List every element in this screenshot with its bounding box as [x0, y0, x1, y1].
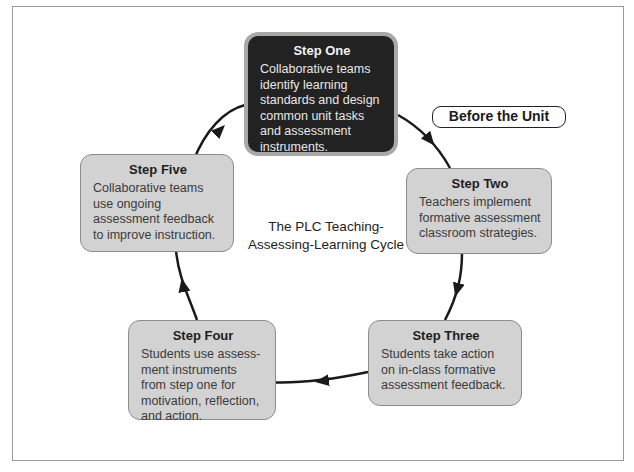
- step-four-box: Step Four Students use assess-ment instr…: [128, 320, 276, 420]
- step-two-text: Teachers implement formative assessment …: [419, 195, 541, 242]
- step-three-text: Students take action on in-class formati…: [381, 347, 511, 394]
- cycle-title-line-1: The PLC Teaching-: [246, 218, 406, 236]
- step-five-box: Step Five Collaborative teams use ongoin…: [80, 154, 234, 252]
- before-the-unit-badge: Before the Unit: [432, 106, 566, 128]
- step-three-box: Step Three Students take action on in-cl…: [368, 320, 522, 406]
- step-two-box: Step Two Teachers implement formative as…: [406, 168, 552, 254]
- step-one-title: Step One: [260, 43, 384, 58]
- step-five-title: Step Five: [93, 162, 223, 177]
- step-four-title: Step Four: [141, 328, 265, 343]
- step-three-title: Step Three: [381, 328, 511, 343]
- step-five-text: Collaborative teams use ongoing assessme…: [93, 181, 223, 243]
- arrow-two-to-three: [445, 253, 462, 320]
- step-one-text: Collaborative teams identify learning st…: [260, 62, 384, 155]
- cycle-title-line-2: Assessing-Learning Cycle: [246, 236, 406, 254]
- step-one-box: Step One Collaborative teams identify le…: [244, 32, 398, 156]
- cycle-title: The PLC Teaching- Assessing-Learning Cyc…: [246, 218, 406, 254]
- arrow-three-to-four: [265, 372, 368, 383]
- arrow-four-to-five: [176, 250, 197, 320]
- step-two-title: Step Two: [419, 176, 541, 191]
- step-four-text: Students use assess-ment instruments fro…: [141, 347, 265, 425]
